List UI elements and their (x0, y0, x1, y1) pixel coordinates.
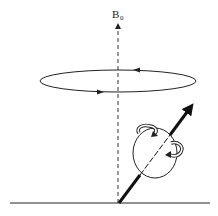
orbit-arrow-top-icon (133, 68, 140, 73)
svg-text:0: 0 (120, 14, 124, 22)
field-label: B 0 (112, 8, 124, 22)
svg-text:B: B (112, 8, 119, 20)
spin-precession-diagram: B 0 (0, 0, 218, 216)
orbit-arrow-bottom-icon (97, 90, 104, 95)
